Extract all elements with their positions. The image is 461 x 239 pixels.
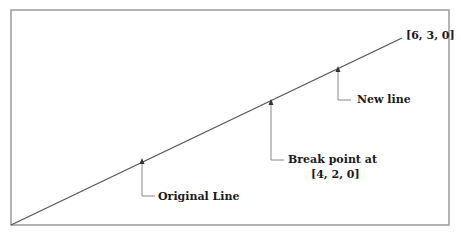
break-point-label: Break point at <box>288 153 377 166</box>
new-line-pointer <box>336 66 352 100</box>
break-point-pointer <box>269 99 285 160</box>
new-line-label: New line <box>357 93 411 106</box>
end-point-label: [6, 3, 0] <box>406 29 455 42</box>
original-line-pointer <box>140 158 156 196</box>
break-point-coords: [4, 2, 0] <box>311 168 360 181</box>
diagram-canvas <box>0 0 461 239</box>
original-line-label: Original Line <box>158 190 239 203</box>
